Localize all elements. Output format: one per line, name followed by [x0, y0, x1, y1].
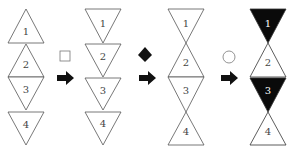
- label-c2-2: 2: [100, 51, 106, 62]
- label-c1-2: 2: [23, 59, 29, 70]
- circle-icon: [223, 51, 235, 63]
- label-c3-1: 1: [183, 18, 189, 29]
- column-4: [250, 9, 286, 145]
- arrow-right-icon: [57, 71, 74, 85]
- arrow-right-icon: [139, 71, 156, 85]
- label-c1-1: 1: [23, 26, 29, 37]
- label-c3-4: 4: [183, 126, 189, 137]
- label-c4-2: 2: [265, 57, 271, 68]
- square-icon: [60, 51, 70, 61]
- label-c4-4: 4: [265, 126, 271, 137]
- label-c1-3: 3: [23, 84, 29, 95]
- diamond-icon: [138, 47, 152, 62]
- label-c3-2: 2: [183, 57, 189, 68]
- label-c2-3: 3: [100, 85, 106, 96]
- label-c4-3: 3: [265, 85, 271, 96]
- label-c4-1: 1: [265, 18, 271, 29]
- triangle-transformation-diagram: 1 2 3 4 1 2 3 4 1 2 3 4 1 2 3 4: [0, 0, 291, 153]
- column-3: [168, 9, 204, 145]
- label-c3-3: 3: [183, 85, 189, 96]
- label-c2-4: 4: [100, 118, 106, 129]
- label-c1-4: 4: [23, 119, 29, 130]
- arrow-right-icon: [221, 71, 238, 85]
- label-c2-1: 1: [100, 18, 106, 29]
